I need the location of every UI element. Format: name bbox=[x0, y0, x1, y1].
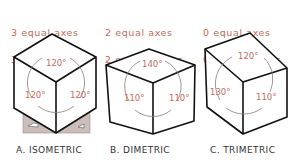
dimetric-angle-left: 110° bbox=[124, 93, 144, 103]
trimetric-cube bbox=[205, 33, 287, 134]
dimetric-angle-right: 110° bbox=[169, 93, 189, 103]
isometric-angle-left: 120° bbox=[25, 90, 45, 100]
isometric-angle-top: 120° bbox=[46, 58, 66, 68]
isometric-label: A. ISOMETRIC bbox=[16, 145, 82, 155]
projection-diagram: 120° 120° 120° 140° 110° 110° 120° 130° … bbox=[0, 0, 297, 163]
dimetric-angle-top: 140° bbox=[142, 59, 162, 69]
dimetric-label: B. DIMETRIC bbox=[110, 145, 170, 155]
trimetric-label: C. TRIMETRIC bbox=[210, 145, 275, 155]
isometric-angle-right: 120° bbox=[70, 90, 90, 100]
trimetric-angle-top: 120° bbox=[238, 51, 258, 61]
trimetric-angle-right: 110° bbox=[256, 92, 276, 102]
trimetric-angle-left: 130° bbox=[210, 87, 230, 97]
